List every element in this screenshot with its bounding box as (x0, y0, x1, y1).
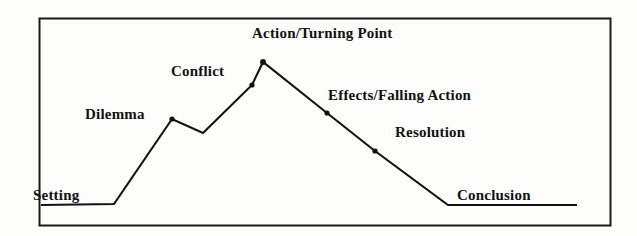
label-conflict: Conflict (171, 64, 224, 79)
label-dilemma: Dilemma (85, 107, 145, 122)
label-resolution: Resolution (395, 125, 465, 140)
plot-diagram-figure: Setting Dilemma Conflict Action/Turning … (0, 0, 637, 236)
label-action-turning-point: Action/Turning Point (252, 26, 393, 41)
point-marker-turning-point (260, 59, 266, 65)
narrative-arc-line (41, 62, 577, 205)
point-marker-falling-action (324, 110, 329, 115)
point-marker-dilemma (169, 116, 174, 121)
label-setting: Setting (33, 188, 79, 203)
label-conclusion: Conclusion (457, 188, 531, 203)
label-effects-falling-action: Effects/Falling Action (328, 88, 471, 103)
point-marker-conflict (249, 82, 254, 87)
point-marker-resolution (372, 148, 377, 153)
